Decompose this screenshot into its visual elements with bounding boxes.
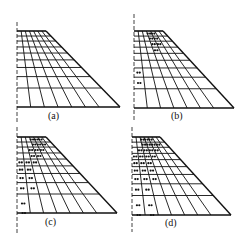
damage-dot bbox=[154, 49, 156, 51]
panel-c bbox=[17, 127, 117, 235]
damage-dot bbox=[37, 149, 39, 151]
damage-dot bbox=[159, 43, 161, 45]
damage-dot bbox=[151, 149, 153, 151]
damage-dot bbox=[133, 162, 135, 164]
grid-column-line bbox=[42, 137, 97, 213]
damage-dot bbox=[33, 161, 35, 163]
grid-column-line bbox=[159, 31, 214, 108]
damage-dot bbox=[144, 144, 146, 146]
damage-dot bbox=[149, 144, 151, 146]
grid-column-line bbox=[146, 31, 173, 108]
damage-dot bbox=[137, 189, 139, 191]
damage-dot bbox=[20, 187, 22, 189]
damage-dot bbox=[150, 162, 152, 164]
damage-dot bbox=[19, 177, 21, 179]
damage-dot bbox=[156, 144, 158, 146]
damage-dot bbox=[37, 155, 39, 157]
damage-dot bbox=[40, 138, 42, 140]
grid-column-line bbox=[21, 31, 31, 107]
damage-dot bbox=[33, 187, 35, 189]
grid-column-line bbox=[152, 137, 198, 215]
panel-d bbox=[132, 127, 231, 232]
grid-column-line bbox=[21, 137, 30, 213]
damage-dot bbox=[157, 149, 159, 151]
grid-column-line bbox=[136, 137, 145, 215]
damage-dot bbox=[18, 161, 20, 163]
damage-dot bbox=[33, 155, 35, 157]
damage-dot bbox=[29, 149, 31, 151]
damage-dot bbox=[44, 143, 46, 145]
damage-dot bbox=[34, 143, 36, 145]
damage-dot bbox=[155, 178, 157, 180]
damage-dot bbox=[21, 169, 23, 171]
damage-dot bbox=[136, 162, 138, 164]
figure-canvas: (a) (b) (c) (d) bbox=[0, 0, 250, 249]
panel-a bbox=[17, 22, 120, 122]
damage-dot bbox=[28, 161, 30, 163]
damage-dot bbox=[27, 169, 29, 171]
damage-dot bbox=[140, 162, 142, 164]
damage-dot bbox=[136, 214, 138, 216]
damage-dot bbox=[150, 169, 152, 171]
damage-dot bbox=[31, 177, 33, 179]
damage-dot bbox=[150, 204, 152, 206]
damage-dot bbox=[156, 38, 158, 40]
damage-dot bbox=[21, 212, 23, 214]
damage-dot bbox=[143, 178, 145, 180]
damage-dot bbox=[156, 49, 158, 51]
damage-dot bbox=[151, 32, 153, 34]
damage-dot bbox=[146, 144, 148, 146]
damage-dot bbox=[151, 155, 153, 157]
damage-dot bbox=[136, 169, 138, 171]
damage-dot bbox=[138, 149, 140, 151]
damage-dot bbox=[31, 149, 33, 151]
grid-column-line bbox=[34, 31, 72, 107]
damage-dot bbox=[135, 189, 137, 191]
slope-edge bbox=[163, 31, 234, 108]
grid-column-line bbox=[42, 31, 99, 107]
grid-column-line bbox=[155, 31, 201, 108]
damage-dot bbox=[143, 162, 145, 164]
damage-dot bbox=[154, 155, 156, 157]
damage-dot bbox=[151, 43, 153, 45]
damage-dot bbox=[25, 161, 27, 163]
damage-dot bbox=[157, 43, 159, 45]
damage-dot bbox=[140, 149, 142, 151]
damage-dot bbox=[19, 169, 21, 171]
damage-dot bbox=[139, 82, 141, 84]
damage-dot bbox=[147, 162, 149, 164]
damage-dot bbox=[154, 149, 156, 151]
panel-label-c: (c) bbox=[45, 216, 56, 228]
damage-dot bbox=[146, 149, 148, 151]
grid-column-line bbox=[151, 31, 188, 108]
damage-dot bbox=[142, 169, 144, 171]
damage-dot bbox=[24, 212, 26, 214]
damage-dot bbox=[22, 177, 24, 179]
damage-dot bbox=[34, 149, 36, 151]
damage-dot bbox=[39, 143, 41, 145]
panel-b bbox=[134, 14, 234, 122]
damage-dot bbox=[148, 189, 150, 191]
damage-dot bbox=[30, 187, 32, 189]
damage-dot bbox=[152, 169, 154, 171]
damage-dot bbox=[149, 38, 151, 40]
damage-dot bbox=[147, 32, 149, 34]
grid-column-line bbox=[142, 31, 160, 108]
grid-column-line bbox=[148, 137, 185, 215]
damage-dot bbox=[134, 169, 136, 171]
grid-column-line bbox=[38, 31, 86, 107]
damage-dot bbox=[148, 155, 150, 157]
damage-dot bbox=[35, 161, 37, 163]
grid-column-line bbox=[25, 31, 44, 107]
grid-column-line bbox=[138, 31, 147, 108]
damage-dot bbox=[136, 204, 138, 206]
damage-dot bbox=[139, 155, 141, 157]
damage-dot bbox=[137, 178, 139, 180]
slope-edge bbox=[160, 137, 231, 215]
damage-dot bbox=[146, 178, 148, 180]
damage-dot bbox=[37, 143, 39, 145]
damage-dot bbox=[144, 138, 146, 140]
damage-dot bbox=[39, 155, 41, 157]
damage-dot bbox=[148, 204, 150, 206]
damage-dot bbox=[28, 177, 30, 179]
